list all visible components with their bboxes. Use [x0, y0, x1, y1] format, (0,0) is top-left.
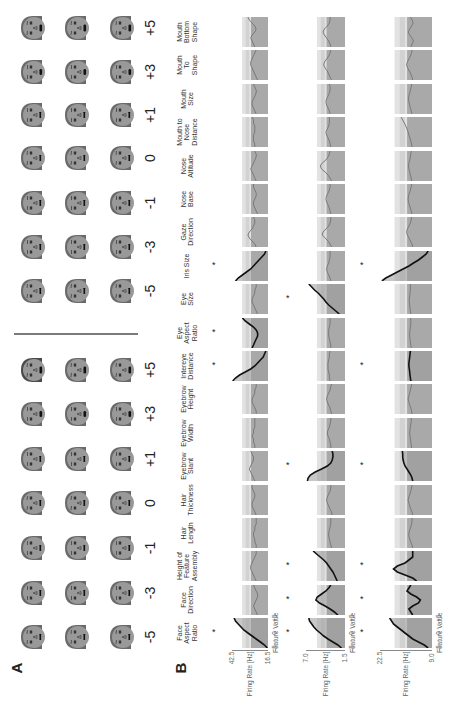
face-stimulus	[64, 399, 90, 429]
face-stimulus	[20, 533, 46, 563]
face-stimulus	[64, 622, 90, 652]
y-axis-label: Firing Rate [Hz]	[322, 644, 330, 704]
tuning-curve-plot	[306, 451, 345, 481]
face-stimulus	[64, 533, 90, 563]
significance-star: *	[360, 360, 364, 370]
feature-value-label: -3	[141, 582, 159, 604]
face-stimulus	[20, 100, 46, 130]
face-stimulus	[109, 143, 135, 173]
tuning-curve-plot	[232, 318, 268, 348]
face-stimulus	[64, 276, 90, 306]
tuning-curve-plot	[380, 117, 432, 147]
face-stimulus	[109, 100, 135, 130]
face-stimulus	[109, 578, 135, 608]
tuning-curve-plot	[306, 418, 345, 448]
y-axis-max-tick: 7.0	[302, 648, 310, 668]
face-stimulus	[20, 188, 46, 218]
significance-star: *	[360, 460, 364, 470]
tuning-curve-plot	[380, 351, 432, 381]
feature-value-label: -5	[141, 626, 159, 648]
face-stimulus	[64, 13, 90, 43]
tuning-curve-plot	[232, 184, 268, 214]
feature-value-label: 0	[141, 492, 159, 514]
face-stimulus	[64, 143, 90, 173]
significance-star: *	[360, 260, 364, 270]
significance-star: *	[360, 627, 364, 637]
tuning-curve-plot	[306, 151, 345, 181]
tuning-curve-plot	[306, 84, 345, 114]
tuning-curve-plot	[232, 351, 268, 381]
face-stimulus	[20, 57, 46, 87]
feature-value-label: +1	[141, 448, 159, 470]
tuning-curve-plot	[380, 485, 432, 515]
panel-b-label: B	[172, 660, 188, 676]
tuning-curve-plot	[306, 50, 345, 80]
face-stimulus	[109, 622, 135, 652]
feature-value-label: +1	[141, 104, 159, 126]
tuning-curve-plot	[380, 217, 432, 247]
face-stimulus	[109, 276, 135, 306]
tuning-curve-plot	[380, 418, 432, 448]
y-axis-max-tick: 22.5	[376, 648, 384, 668]
face-stimulus	[20, 355, 46, 385]
feature-value-label: +3	[141, 403, 159, 425]
significance-star: *	[360, 594, 364, 604]
face-stimulus	[109, 444, 135, 474]
tuning-curve-plot	[232, 585, 268, 615]
face-stimulus	[109, 533, 135, 563]
tuning-curve-plot	[306, 217, 345, 247]
tuning-curve-plot	[306, 318, 345, 348]
face-stimulus	[109, 13, 135, 43]
tuning-curve-plot	[232, 551, 268, 581]
tuning-curve-plot	[380, 84, 432, 114]
tuning-curve-plot	[232, 151, 268, 181]
y-axis-max-tick: 42.5	[228, 648, 236, 668]
face-stimulus	[64, 488, 90, 518]
significance-star: *	[212, 627, 216, 637]
tuning-curve-plot	[306, 184, 345, 214]
significance-star: *	[286, 560, 290, 570]
face-stimulus	[20, 488, 46, 518]
face-stimulus	[20, 622, 46, 652]
tuning-curve-plot	[232, 384, 268, 414]
significance-star: *	[286, 594, 290, 604]
face-stimulus	[64, 232, 90, 262]
face-stimulus	[20, 444, 46, 474]
face-stimulus	[20, 276, 46, 306]
feature-value-label: -1	[141, 192, 159, 214]
feature-value-label: -1	[141, 537, 159, 559]
tuning-curve-plot	[380, 184, 432, 214]
tuning-curve-plot	[232, 50, 268, 80]
face-stimulus	[109, 57, 135, 87]
face-stimulus	[109, 232, 135, 262]
tuning-curve-plot	[306, 485, 345, 515]
tuning-curve-plot	[380, 318, 432, 348]
tuning-curve-plot	[380, 384, 432, 414]
face-stimulus	[64, 578, 90, 608]
x-axis-label: Feature Value	[436, 613, 444, 653]
feature-value-label: -5	[141, 280, 159, 302]
tuning-curve-plot	[232, 117, 268, 147]
tuning-curve-plot	[306, 384, 345, 414]
tuning-curve-plot	[306, 284, 345, 314]
significance-star: *	[286, 293, 290, 303]
tuning-curve-plot	[380, 50, 432, 80]
tuning-curve-plot	[306, 251, 345, 281]
face-stimulus	[64, 57, 90, 87]
tuning-curve-plot	[232, 485, 268, 515]
tuning-curve-plot	[232, 418, 268, 448]
panel-a-label: A	[8, 660, 24, 676]
tuning-curve-plot	[380, 151, 432, 181]
significance-star: *	[286, 627, 290, 637]
tuning-curve-plot	[232, 518, 268, 548]
tuning-curve-plot	[380, 251, 432, 281]
face-stimulus	[109, 399, 135, 429]
tuning-curve-plot	[232, 251, 268, 281]
face-stimulus	[64, 188, 90, 218]
face-group-divider	[14, 333, 138, 335]
feature-value-label: 0	[141, 147, 159, 169]
face-stimulus	[64, 100, 90, 130]
significance-star: *	[212, 360, 216, 370]
y-axis-label: Firing Rate [Hz]	[402, 644, 410, 704]
tuning-curve-plot	[232, 451, 268, 481]
